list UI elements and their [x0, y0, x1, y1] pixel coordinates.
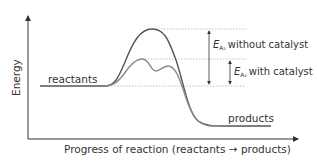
reactants-label: reactants	[48, 73, 98, 85]
energy-diagram: Energy Progress of reaction (reactants →…	[0, 0, 317, 163]
x-axis-label: Progress of reaction (reactants → produc…	[64, 143, 291, 155]
products-label: products	[228, 112, 274, 124]
ea1-label: EA₁without catalyst	[213, 39, 308, 51]
ea2-label: EA₂with catalyst	[234, 66, 313, 78]
y-axis-label: Energy	[10, 59, 22, 96]
